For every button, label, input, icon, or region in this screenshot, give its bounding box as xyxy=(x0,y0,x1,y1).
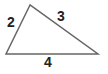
side-label-left: 2 xyxy=(7,14,15,30)
side-label-bottom: 4 xyxy=(44,54,52,70)
triangle-diagram: 2 3 4 xyxy=(0,0,108,74)
triangle-shape xyxy=(6,5,98,54)
side-label-right: 3 xyxy=(57,8,65,24)
